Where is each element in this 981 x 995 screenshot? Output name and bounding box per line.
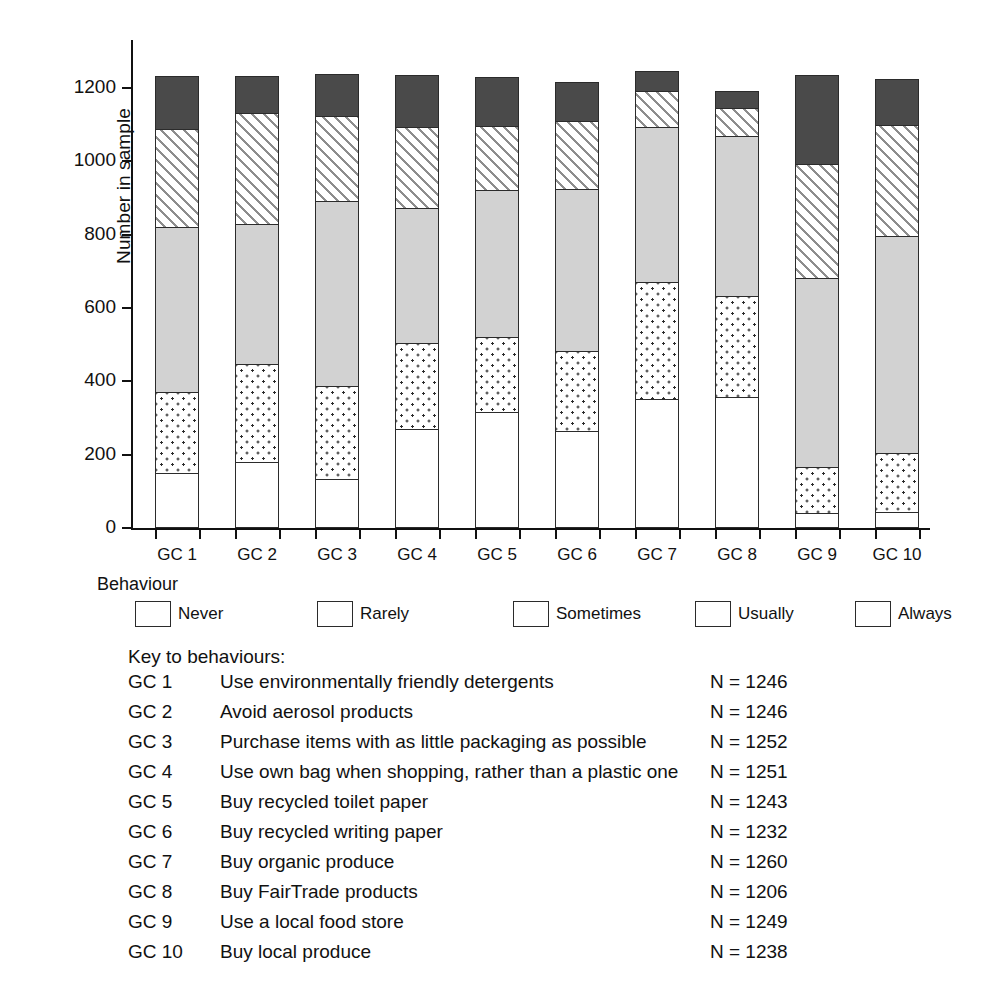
key-row-code: GC 2 [128,701,220,723]
bar-segment-never [795,513,839,528]
x-axis-tick [635,530,637,539]
bar-segment-always [235,76,279,114]
key-row-description: Use own bag when shopping, rather than a… [220,761,710,783]
x-axis-tick [475,530,477,539]
key-row: GC 3Purchase items with as little packag… [128,731,958,761]
key-row-description: Avoid aerosol products [220,701,710,723]
y-axis-tick-label: 0 [105,516,116,538]
bar-segment-usually [235,113,279,225]
open-square-swatch [135,601,171,627]
bar-segment-usually [395,127,439,209]
stacked-bar [315,75,359,528]
bar-segment-always [795,75,839,165]
key-heading: Key to behaviours: [128,646,958,668]
key-row-sample-size: N = 1206 [710,881,788,903]
bar-segment-rarely [315,386,359,480]
key-row-code: GC 6 [128,821,220,843]
bar-segment-rarely [795,467,839,514]
key-row: GC 8Buy FairTrade productsN = 1206 [128,881,958,911]
bar-segment-sometimes [875,236,919,454]
y-axis-tick-label: 1000 [74,149,116,171]
x-axis-tick [199,530,201,539]
x-axis-tick [315,530,317,539]
key-row-sample-size: N = 1232 [710,821,788,843]
key-row: GC 7Buy organic produceN = 1260 [128,851,958,881]
bar-segment-always [715,91,759,110]
y-axis-tick: 600 [122,307,131,309]
bar-segment-sometimes [155,227,199,393]
bar-segment-sometimes [395,208,439,344]
bar-segment-rarely [555,351,599,432]
legend-item-sometimes[interactable]: Sometimes [513,601,641,627]
chart-page: Number in sample 020040060080010001200 G… [0,0,981,995]
key-row-code: GC 8 [128,881,220,903]
x-axis-label-gc-6: GC 6 [532,545,622,565]
x-axis-tick [875,530,877,539]
bar-segment-never [235,462,279,528]
key-row-description: Purchase items with as little packaging … [220,731,710,753]
x-axis-tick [555,530,557,539]
key-row: GC 5Buy recycled toilet paperN = 1243 [128,791,958,821]
key-row: GC 6Buy recycled writing paperN = 1232 [128,821,958,851]
dotted-square-swatch [317,601,353,627]
x-axis-tick [795,530,797,539]
bar-segment-rarely [155,392,199,474]
stacked-bar-chart: Number in sample 020040060080010001200 G… [0,0,981,575]
legend-item-usually[interactable]: Usually [695,601,794,627]
x-axis-tick [759,530,761,539]
legend-label: Sometimes [556,604,641,624]
x-axis-label-gc-8: GC 8 [692,545,782,565]
key-row-sample-size: N = 1246 [710,701,788,723]
x-axis-tick [679,530,681,539]
y-axis-tick: 1200 [122,87,131,89]
key-row-code: GC 3 [128,731,220,753]
key-row-code: GC 1 [128,671,220,693]
y-axis-tick-label: 400 [84,369,116,391]
bar-segment-rarely [475,337,519,414]
dark-square-swatch [855,601,891,627]
x-axis-label-gc-1: GC 1 [132,545,222,565]
key-to-behaviours: Key to behaviours: GC 1Use environmental… [128,646,958,971]
plot-area: 020040060080010001200 GC 1GC 2GC 3GC 4GC… [131,40,930,530]
bar-segment-always [555,82,599,123]
x-axis-tick [395,530,397,539]
key-row: GC 10Buy local produceN = 1238 [128,941,958,971]
key-row-description: Use a local food store [220,911,710,933]
y-axis-tick: 400 [122,380,131,382]
y-axis-tick-label: 800 [84,223,116,245]
stacked-bar [235,78,279,528]
x-axis-tick [519,530,521,539]
key-row-sample-size: N = 1246 [710,671,788,693]
legend-item-always[interactable]: Always [855,601,952,627]
bar-segment-never [875,512,919,528]
legend-item-never[interactable]: Never [135,601,223,627]
key-row-code: GC 9 [128,911,220,933]
y-axis-tick: 200 [122,454,131,456]
hatched-square-swatch [695,601,731,627]
legend-item-list: NeverRarelySometimesUsuallyAlways [95,601,945,635]
key-row-code: GC 5 [128,791,220,813]
stacked-bar [475,79,519,528]
bar-segment-sometimes [555,189,599,352]
y-axis-tick: 1000 [122,160,131,162]
stacked-bar [155,78,199,528]
bar-segment-usually [155,129,199,229]
bar-segment-never [715,397,759,528]
bar-segment-rarely [395,343,439,430]
key-row-description: Buy organic produce [220,851,710,873]
bar-segment-rarely [235,364,279,463]
stacked-bar [555,83,599,528]
bar-segment-always [155,76,199,130]
x-axis-label-gc-9: GC 9 [772,545,862,565]
key-row-sample-size: N = 1238 [710,941,788,963]
key-row-description: Buy local produce [220,941,710,963]
y-axis-line [131,40,133,530]
key-row: GC 4Use own bag when shopping, rather th… [128,761,958,791]
legend-item-rarely[interactable]: Rarely [317,601,409,627]
x-axis-tick [599,530,601,539]
legend-label: Rarely [360,604,409,624]
stacked-bar [635,73,679,528]
legend-title: Behaviour [95,574,945,595]
key-row-code: GC 7 [128,851,220,873]
bar-segment-never [155,473,199,528]
